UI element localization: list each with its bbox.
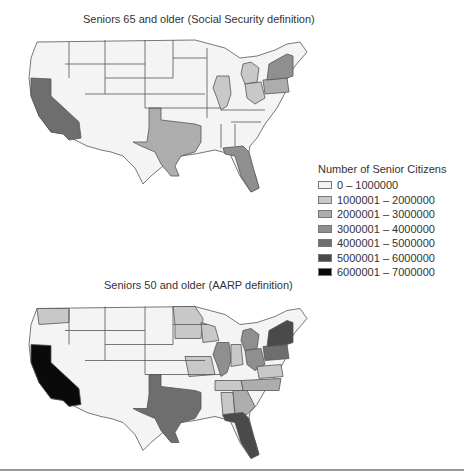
- top-map: [25, 38, 315, 198]
- legend-title: Number of Senior Citizens: [318, 163, 446, 175]
- legend-label: 1000001 – 2000000: [337, 194, 435, 206]
- legend-item: 6000001 – 7000000: [318, 265, 446, 280]
- legend-item: 2000001 – 3000000: [318, 207, 446, 222]
- legend-item: 0 – 1000000: [318, 178, 446, 193]
- legend-item: 4000001 – 5000000: [318, 236, 446, 251]
- state-tn: [215, 381, 243, 391]
- legend-swatch: [318, 196, 332, 204]
- legend-label: 2000001 – 3000000: [337, 208, 435, 220]
- legend-item: 3000001 – 4000000: [318, 222, 446, 237]
- state-fl: [223, 146, 259, 192]
- top-map-title: Seniors 65 and older (Social Security de…: [83, 13, 315, 25]
- legend-swatch: [318, 268, 332, 276]
- legend-label: 5000001 – 6000000: [337, 252, 435, 264]
- legend-swatch: [318, 225, 332, 233]
- state-wa: [37, 309, 69, 325]
- state-mo: [185, 357, 215, 377]
- state-al: [221, 393, 235, 417]
- legend-swatch: [318, 181, 332, 189]
- legend: Number of Senior Citizens 0 – 1000000 10…: [318, 163, 446, 280]
- legend-swatch: [318, 239, 332, 247]
- state-pa: [263, 345, 289, 361]
- legend-swatch: [318, 254, 332, 262]
- state-nc: [241, 379, 281, 391]
- state-fl: [223, 413, 259, 459]
- bottom-map-title: Seniors 50 and older (AARP definition): [104, 279, 293, 291]
- state-pa: [263, 78, 289, 94]
- state-mn: [173, 307, 203, 339]
- legend-item: 1000001 – 2000000: [318, 193, 446, 208]
- state-in: [231, 345, 243, 367]
- legend-label: 6000001 – 7000000: [337, 266, 435, 278]
- legend-label: 0 – 1000000: [337, 179, 398, 191]
- state-va: [257, 365, 283, 379]
- legend-label: 3000001 – 4000000: [337, 223, 435, 235]
- bottom-divider: [0, 469, 464, 471]
- legend-item: 5000001 – 6000000: [318, 251, 446, 266]
- legend-label: 4000001 – 5000000: [337, 237, 435, 249]
- bottom-map: [25, 302, 315, 467]
- legend-swatch: [318, 210, 332, 218]
